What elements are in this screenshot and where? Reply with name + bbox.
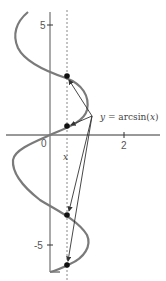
curve-label: y = arcsin(x) <box>99 112 158 122</box>
x-marker-label: x <box>63 152 68 162</box>
y-tick-label-neg5: -5 <box>34 240 43 251</box>
curve-label-eq: = arcsin( <box>105 112 150 122</box>
intersection-point-2 <box>64 123 70 129</box>
intersection-point-1 <box>64 73 70 79</box>
curve-label-close: ) <box>155 112 159 122</box>
arcsin-diagram: 5 -5 0 2 x y = arcsin(x) <box>0 0 166 281</box>
x-tick-label-2: 2 <box>121 140 127 151</box>
arrow-to-point-3 <box>69 116 92 211</box>
arrow-to-point-1 <box>69 80 92 116</box>
intersection-point-3 <box>64 212 70 218</box>
intersection-point-4 <box>64 262 70 268</box>
arcsin-curve <box>13 12 89 272</box>
y-tick-label-5: 5 <box>40 20 46 31</box>
